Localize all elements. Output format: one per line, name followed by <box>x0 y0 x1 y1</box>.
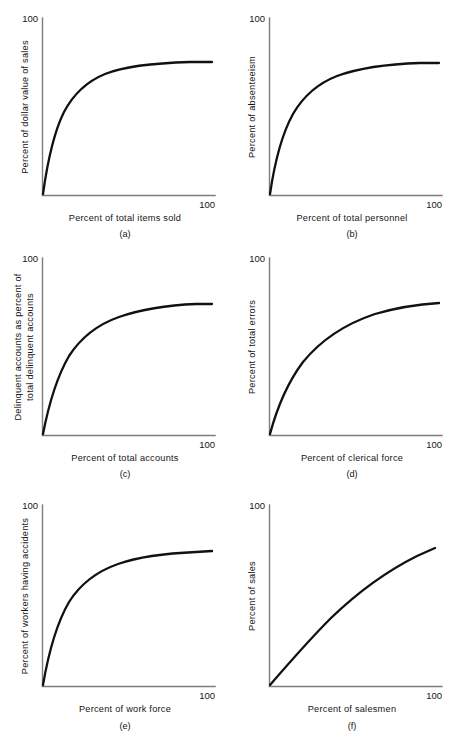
panel-caption-b: (b) <box>346 229 357 239</box>
panel-caption-a: (a) <box>119 229 130 239</box>
x-axis-title-b: Percent of total personnel <box>296 213 407 223</box>
y-axis-title-a: Percent of dollar value of sales <box>20 40 30 174</box>
panel-caption-c: (c) <box>120 469 131 479</box>
x-axis-title-f: Percent of salesmen <box>308 704 397 714</box>
x-tick-label-d: 100 <box>426 439 442 450</box>
clipped-top-caption <box>0 0 454 8</box>
panel-caption-d: (d) <box>346 469 357 479</box>
x-axis-title-a: Percent of total items sold <box>69 213 181 223</box>
y-tick-label-b: 100 <box>249 13 265 24</box>
x-axis-title-e: Percent of work force <box>79 704 171 714</box>
y-tick-label-e: 100 <box>22 500 38 511</box>
y-tick-label-a: 100 <box>22 13 38 24</box>
x-tick-label-e: 100 <box>199 690 215 701</box>
x-axis-title-d: Percent of clerical force <box>301 453 403 463</box>
y-tick-label-c: 100 <box>22 253 38 264</box>
chart-panel-f: 100 100 Percent of sales Percent of sale… <box>227 495 454 737</box>
x-tick-label-a: 100 <box>199 199 215 210</box>
x-tick-label-f: 100 <box>426 690 442 701</box>
data-curve-d <box>270 303 439 434</box>
chart-panel-d: 100 100 Percent of total errors Percent … <box>227 248 454 490</box>
y-axis-title-c-line1: Delinquent accounts as percent of <box>13 273 23 420</box>
chart-svg-d: 100 100 Percent of total errors Percent … <box>227 248 454 490</box>
panel-caption-f: (f) <box>348 721 357 731</box>
chart-panel-e: 100 100 Percent of workers having accide… <box>0 495 227 737</box>
y-tick-label-d: 100 <box>249 253 265 264</box>
data-curve-a <box>43 62 212 194</box>
y-axis-title-f: Percent of sales <box>247 561 257 631</box>
figure-six-pareto-curves: 100 100 Percent of dollar value of sales… <box>0 0 454 737</box>
x-tick-label-c: 100 <box>199 439 215 450</box>
chart-svg-f: 100 100 Percent of sales Percent of sale… <box>227 495 454 737</box>
data-curve-b <box>270 63 439 194</box>
chart-svg-e: 100 100 Percent of workers having accide… <box>0 495 227 737</box>
data-curve-f <box>270 548 435 685</box>
y-tick-label-f: 100 <box>249 500 265 511</box>
chart-panel-a: 100 100 Percent of dollar value of sales… <box>0 8 227 240</box>
chart-svg-a: 100 100 Percent of dollar value of sales… <box>0 8 227 240</box>
y-axis-title-c-line2: total delinquent accounts <box>25 293 35 401</box>
y-axis-title-e: Percent of workers having accidents <box>20 518 30 674</box>
chart-svg-b: 100 100 Percent of absenteeism Percent o… <box>227 8 454 240</box>
x-tick-label-b: 100 <box>426 199 442 210</box>
panel-caption-e: (e) <box>119 721 130 731</box>
y-axis-title-d: Percent of total errors <box>247 300 257 394</box>
chart-svg-c: 100 100 Delinquent accounts as percent o… <box>0 248 227 490</box>
y-axis-title-b: Percent of absenteeism <box>247 56 257 158</box>
x-axis-title-c: Percent of total accounts <box>71 453 179 463</box>
chart-panel-b: 100 100 Percent of absenteeism Percent o… <box>227 8 454 240</box>
data-curve-c <box>43 304 212 434</box>
chart-panel-c: 100 100 Delinquent accounts as percent o… <box>0 248 227 490</box>
data-curve-e <box>43 551 212 685</box>
